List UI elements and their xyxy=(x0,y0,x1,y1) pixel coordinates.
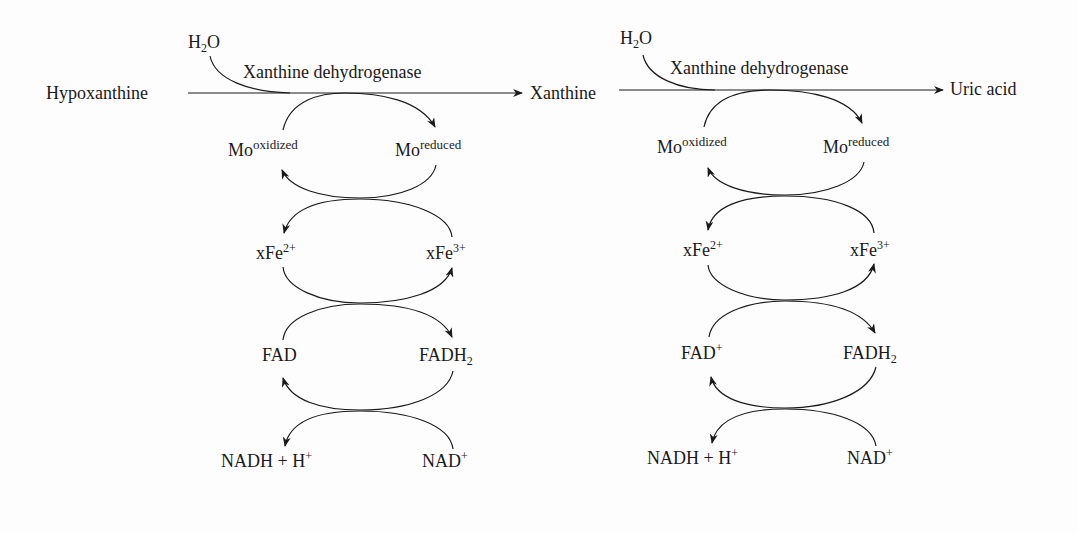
nadh-label-2: NADH + H+ xyxy=(647,449,738,467)
fadh2-label-2: FADH2 xyxy=(843,344,897,362)
mo-oxidized-label-1: Mooxidized xyxy=(228,141,298,159)
fad-plus-label-2: FAD+ xyxy=(681,344,722,362)
enzyme-label-1: Xanthine dehydrogenase xyxy=(243,63,421,81)
water-label-1: H2O xyxy=(188,33,220,51)
nad-label-2: NAD+ xyxy=(847,449,893,467)
mo-oxidized-label-2: Mooxidized xyxy=(657,138,727,156)
pathway-arrows xyxy=(0,0,1077,533)
nadh-label-1: NADH + H+ xyxy=(221,452,312,470)
mo-reduced-label-2: Moreduced xyxy=(823,138,889,156)
substrate-xanthine: Xanthine xyxy=(530,84,596,102)
fe2-label-2: xFe2+ xyxy=(683,241,723,259)
water-label-2: H2O xyxy=(620,29,652,47)
fe2-label-1: xFe2+ xyxy=(256,244,296,262)
fad-label-1: FAD xyxy=(262,346,297,364)
nad-label-1: NAD+ xyxy=(422,452,468,470)
mo-reduced-label-1: Moreduced xyxy=(395,141,461,159)
substrate-hypoxanthine: Hypoxanthine xyxy=(46,84,148,102)
fe3-label-1: xFe3+ xyxy=(426,244,466,262)
enzyme-label-2: Xanthine dehydrogenase xyxy=(670,59,848,77)
fadh2-label-1: FADH2 xyxy=(419,346,473,364)
fe3-label-2: xFe3+ xyxy=(850,241,890,259)
product-uric-acid: Uric acid xyxy=(950,80,1016,98)
